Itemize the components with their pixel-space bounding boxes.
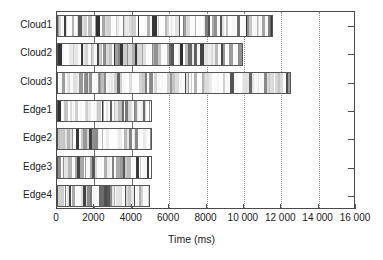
stripe-fill [58,129,151,149]
bar-cloud1[interactable] [57,15,273,37]
table-row [57,72,354,94]
table-row [57,100,354,122]
table-row [57,156,354,178]
x-axis-tick-label-16000: 16 000 [340,213,371,223]
y-axis-label-cloud1: Cloud1 [0,20,52,30]
stripe-fill [58,44,242,64]
x-axis-tick-label-12000: 12 000 [265,213,296,223]
x-tick-10000 [243,204,244,209]
x-tick-2000 [93,204,94,209]
y-axis-label-edge2: Edge2 [0,133,52,143]
bar-edge2[interactable] [57,128,152,150]
x-axis-tick-label-6000: 6000 [157,213,179,223]
x-tick-0 [56,204,57,209]
plot-area [56,11,355,209]
bar-edge4[interactable] [57,185,150,207]
y-axis-label-cloud2: Cloud2 [0,48,52,58]
table-row [57,43,354,65]
x-axis-title: Time (ms) [0,233,383,245]
stripe-fill [58,101,151,121]
x-axis-tick-label-10000: 10 000 [228,213,259,223]
x-tick-14000 [318,204,319,209]
task-segment [150,129,152,149]
y-axis-label-edge4: Edge4 [0,190,52,200]
table-row [57,128,354,150]
x-tick-6000 [168,204,169,209]
x-tick-8000 [206,204,207,209]
x-axis-tick-label-0: 0 [53,213,59,223]
x-tick-4000 [131,204,132,209]
x-axis-tick-label-14000: 14 000 [302,213,333,223]
bar-cloud3[interactable] [57,72,291,94]
y-axis-label-edge3: Edge3 [0,162,52,172]
task-segment [151,101,152,121]
y-axis-label-edge1: Edge1 [0,105,52,115]
stripe-fill [58,186,149,206]
stripe-fill [58,157,151,177]
task-segment [272,16,273,36]
table-row [57,15,354,37]
stripe-fill [58,16,272,36]
task-segment [242,44,243,64]
x-axis-tick-label-8000: 8000 [194,213,216,223]
bar-edge1[interactable] [57,100,152,122]
task-segment [148,186,150,206]
gantt-chart: Cloud1Cloud2Cloud3Edge1Edge2Edge3Edge4 0… [0,0,383,260]
x-tick-16000 [355,204,356,209]
x-tick-12000 [280,204,281,209]
task-segment [151,157,152,177]
bar-cloud2[interactable] [57,43,243,65]
stripe-fill [58,73,290,93]
x-axis-tick-label-4000: 4000 [120,213,142,223]
bar-edge3[interactable] [57,156,152,178]
y-axis-label-cloud3: Cloud3 [0,77,52,87]
x-axis-tick-label-2000: 2000 [82,213,104,223]
